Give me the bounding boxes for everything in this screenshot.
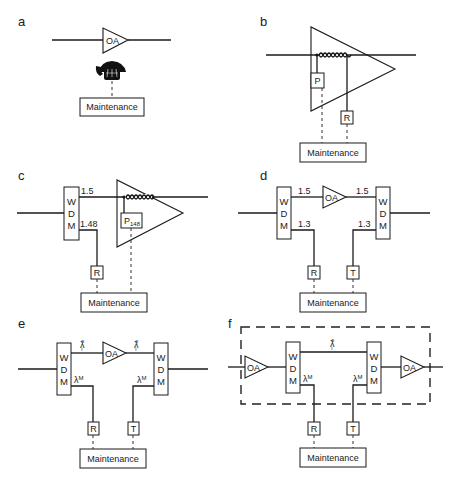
supervisory-wavelength: 1.48 — [80, 219, 98, 229]
wdm-coupler: W D M — [64, 187, 79, 240]
maintenance-label: Maintenance — [307, 453, 359, 463]
panel-a: a OA Maintenance — [18, 14, 171, 116]
maintenance-box: Maintenance — [300, 448, 366, 467]
wdm-letter: D — [68, 208, 75, 219]
signal-lambda-out: λsi — [134, 338, 139, 352]
wdm-letter: W — [60, 352, 69, 363]
diagram-svg: a OA Maintenance b — [0, 0, 456, 477]
transmitter-label: T — [131, 424, 137, 434]
wdm-coupler-left: W D M — [277, 187, 291, 239]
supervisory-fiber-rx — [291, 230, 314, 266]
wdm-letter: D — [158, 364, 165, 375]
wdm-letter: W — [280, 196, 289, 207]
wdm-letter: W — [370, 351, 379, 362]
doped-fiber-coil-icon — [122, 194, 154, 201]
wdm-letter: M — [68, 220, 76, 231]
receiver-box: R — [88, 422, 99, 435]
transmitter-box: T — [128, 422, 139, 435]
wdm-letter: D — [281, 208, 288, 219]
pump-label: P — [314, 76, 320, 86]
panel-e: e W D M λsi OA λsi W D M λM λM R — [18, 316, 208, 468]
optical-amplifier: OA — [103, 342, 126, 364]
signal-wavelength-out: 1.5 — [356, 186, 369, 196]
wdm-letter: M — [370, 375, 378, 386]
supervisory-fiber-tx — [353, 230, 376, 266]
pump-box: P148 — [121, 213, 142, 228]
supervisory-fiber — [79, 230, 97, 266]
supervisory-wavelength-tx: 1.3 — [358, 219, 371, 229]
supervisory-fiber-tx — [133, 386, 154, 422]
panel-d: d W D M 1.5 OA 1.5 W D M 1.3 1.3 R — [238, 168, 430, 312]
maintenance-box: Maintenance — [300, 143, 366, 162]
panel-label-b: b — [260, 14, 267, 29]
maintenance-box: Maintenance — [300, 293, 366, 312]
maintenance-label: Maintenance — [307, 298, 359, 308]
wdm-coupler-right: W D M — [367, 342, 381, 393]
panel-label-a: a — [18, 14, 26, 29]
amplifier-label: OA — [247, 363, 260, 373]
panel-label-f: f — [228, 316, 232, 331]
wdm-letter: W — [379, 196, 388, 207]
amplifier-label: OA — [105, 349, 118, 359]
maintenance-label: Maintenance — [307, 148, 359, 158]
maintenance-box: Maintenance — [81, 293, 147, 312]
panel-label-e: e — [18, 316, 25, 331]
receiver-label: R — [311, 268, 318, 278]
amplifier-label: OA — [106, 36, 119, 46]
supervisory-lambda-tx: λM — [137, 375, 147, 385]
receiver-label: R — [94, 268, 101, 278]
supervisory-wavelength-rx: 1.3 — [298, 219, 311, 229]
transmitter-box: T — [347, 422, 359, 435]
wdm-coupler-left: W D M — [57, 343, 71, 395]
wdm-letter: M — [280, 220, 288, 231]
panel-label-c: c — [18, 168, 25, 183]
maintenance-box: Maintenance — [80, 449, 146, 468]
wdm-letter: D — [290, 363, 297, 374]
amplifier-label: OA — [325, 193, 338, 203]
transmitter-label: T — [350, 424, 356, 434]
wdm-letter: D — [371, 363, 378, 374]
maintenance-label: Maintenance — [86, 102, 138, 112]
signal-lambda: λsi — [330, 337, 335, 351]
figure-canvas: a OA Maintenance b — [0, 0, 456, 477]
maintenance-label: Maintenance — [87, 454, 139, 464]
receiver-label: R — [344, 113, 351, 123]
panel-c: c W D M 1.5 P148 1.48 R Mai — [17, 168, 208, 312]
wdm-coupler-right: W D M — [376, 187, 390, 239]
receiver-label: R — [90, 424, 97, 434]
amplifier-triangle-icon — [311, 27, 395, 111]
amplifier-label: OA — [403, 363, 416, 373]
optical-amplifier: OA — [103, 28, 128, 53]
wdm-coupler-left: W D M — [286, 342, 300, 393]
wdm-coupler-right: W D M — [154, 343, 168, 395]
maintenance-label: Maintenance — [88, 298, 140, 308]
panel-b: b P R Maintenance — [260, 14, 416, 162]
supervisory-fiber-rx — [71, 386, 93, 422]
wdm-letter: M — [60, 376, 68, 387]
optical-amplifier-in: OA — [245, 356, 268, 378]
signal-wavelength: 1.5 — [81, 186, 94, 196]
panel-f: f OA W D M λsi W D M OA λM λM — [228, 316, 443, 467]
receiver-box: R — [308, 266, 320, 279]
receiver-label: R — [311, 424, 318, 434]
optical-amplifier: OA — [323, 186, 346, 208]
panel-label-d: d — [260, 168, 267, 183]
receiver-box: R — [341, 111, 353, 124]
wdm-letter: D — [61, 364, 68, 375]
wdm-letter: D — [380, 208, 387, 219]
supervisory-lambda-tx: λM — [353, 374, 363, 384]
transmitter-box: T — [347, 266, 359, 279]
wdm-letter: M — [289, 375, 297, 386]
transmitter-label: T — [350, 268, 356, 278]
wdm-letter: W — [67, 196, 76, 207]
receiver-box: R — [91, 266, 103, 279]
signal-wavelength-in: 1.5 — [298, 186, 311, 196]
receiver-box: R — [308, 422, 320, 435]
supervisory-lambda-rx: λM — [74, 375, 84, 385]
wdm-letter: M — [157, 376, 165, 387]
optical-amplifier-out: OA — [401, 356, 424, 378]
maintenance-box: Maintenance — [80, 98, 144, 116]
doped-fiber-coil-icon — [315, 52, 351, 59]
wdm-letter: W — [157, 352, 166, 363]
wdm-letter: W — [289, 351, 298, 362]
